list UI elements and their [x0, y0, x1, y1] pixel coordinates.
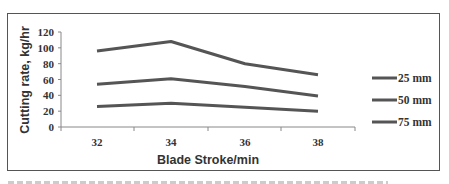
legend-label: 50 mm [398, 94, 432, 106]
x-tick-label: 34 [166, 136, 178, 148]
legend-item-25mm: 25 mm [372, 72, 432, 84]
legend-label: 75 mm [398, 116, 432, 128]
cropped-caption-text [8, 181, 388, 184]
x-ticks: 32343638 [61, 127, 355, 148]
y-tick-label: 20 [43, 105, 55, 117]
x-tick-label: 32 [92, 136, 104, 148]
y-axis-title: Cutting rate, kg/hr [18, 26, 32, 134]
data-series [97, 42, 318, 112]
y-tick-label: 120 [38, 26, 55, 38]
line-chart: 020406080100120 32343638 Cutting rate, k… [0, 0, 449, 184]
y-tick-label: 40 [43, 89, 55, 101]
x-tick-label: 38 [313, 136, 325, 148]
y-tick-label: 0 [49, 121, 55, 133]
series-line-75mm [97, 103, 318, 111]
series-line-50mm [97, 79, 318, 96]
y-tick-label: 80 [43, 58, 55, 70]
series-line-25mm [97, 42, 318, 75]
x-axis-title: Blade Stroke/min [157, 153, 259, 167]
legend-label: 25 mm [398, 72, 432, 84]
legend-item-75mm: 75 mm [372, 116, 432, 128]
y-ticks: 020406080100120 [38, 26, 62, 133]
legend: 25 mm 50 mm 75 mm [372, 72, 432, 128]
legend-item-50mm: 50 mm [372, 94, 432, 106]
y-tick-label: 60 [43, 74, 55, 86]
y-tick-label: 100 [38, 42, 55, 54]
x-tick-label: 36 [240, 136, 252, 148]
